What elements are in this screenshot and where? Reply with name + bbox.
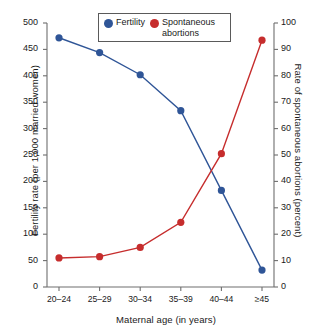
legend-item-label: Fertility xyxy=(116,17,145,28)
data-point[interactable] xyxy=(177,107,184,114)
data-point[interactable] xyxy=(218,187,225,194)
data-point[interactable] xyxy=(55,254,62,261)
chart-legend: Fertility Spontaneous abortions xyxy=(98,13,231,42)
plot-area xyxy=(0,0,332,334)
data-point[interactable] xyxy=(258,37,265,44)
data-series-layer xyxy=(55,34,265,274)
data-point[interactable] xyxy=(177,219,184,226)
axis-lines xyxy=(43,23,278,291)
data-point[interactable] xyxy=(137,71,144,78)
legend-marker-icon xyxy=(104,19,113,28)
data-point[interactable] xyxy=(218,150,225,157)
chart-figure: Fertility rate (per 1,000 married women)… xyxy=(0,0,332,334)
legend-item-spontaneous-abortions[interactable]: Spontaneous abortions xyxy=(150,17,224,38)
data-point[interactable] xyxy=(258,267,265,274)
series-line-spontaneous-abortions xyxy=(59,40,262,258)
data-point[interactable] xyxy=(137,244,144,251)
data-point[interactable] xyxy=(55,34,62,41)
legend-marker-icon xyxy=(150,19,159,28)
data-point[interactable] xyxy=(96,253,103,260)
data-point[interactable] xyxy=(96,49,103,56)
legend-row: Fertility Spontaneous abortions xyxy=(104,17,224,38)
legend-item-label: Spontaneous abortions xyxy=(162,17,224,38)
legend-item-fertility[interactable]: Fertility xyxy=(104,17,145,28)
